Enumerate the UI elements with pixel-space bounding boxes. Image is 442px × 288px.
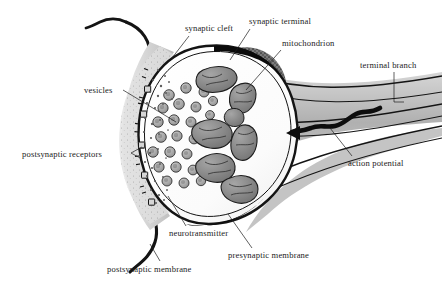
vesicle	[172, 131, 182, 141]
vesicle	[156, 132, 167, 143]
postsynaptic-membrane-upper-tail	[86, 19, 126, 28]
label-action-potential: action potential	[348, 158, 404, 168]
vesicle	[181, 83, 191, 93]
vesicle	[174, 99, 185, 110]
label-neurotransmitter: neurotransmitter	[169, 228, 228, 238]
vesicle	[179, 178, 189, 188]
vesicle	[206, 111, 215, 120]
vesicle	[208, 96, 217, 105]
label-postsynaptic-receptors: postsynaptic receptors	[22, 149, 102, 159]
synapse-diagram-figure: synaptic cleft synaptic terminal mitocho…	[0, 0, 442, 288]
label-synaptic-cleft: synaptic cleft	[185, 23, 234, 33]
vesicle	[171, 162, 181, 172]
postsynaptic-receptor	[149, 199, 155, 205]
label-synaptic-terminal: synaptic terminal	[249, 16, 311, 26]
vesicle	[191, 102, 201, 112]
vesicle	[154, 162, 164, 172]
vesicle	[182, 149, 192, 159]
vesicle	[165, 147, 175, 157]
label-terminal-branch: terminal branch	[360, 60, 417, 70]
vesicle	[153, 117, 163, 127]
label-postsynaptic-membrane: postsynaptic membrane	[107, 264, 192, 274]
label-presynaptic-membrane: presynaptic membrane	[228, 250, 309, 260]
label-mitochondrion: mitochondrion	[282, 38, 335, 48]
vesicle	[148, 147, 158, 157]
mitochondrion	[224, 108, 244, 126]
label-vesicles: vesicles	[84, 85, 113, 95]
vesicle	[169, 115, 179, 125]
postsynaptic-receptor	[141, 111, 147, 117]
synapse-diagram-svg: synaptic cleft synaptic terminal mitocho…	[0, 0, 442, 288]
